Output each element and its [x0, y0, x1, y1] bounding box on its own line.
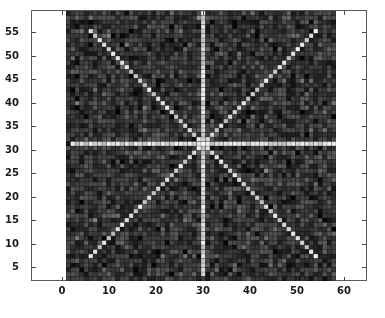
y-tick-mark: [32, 244, 36, 245]
x-tick-label: 50: [290, 286, 304, 296]
x-tick-label: 0: [59, 286, 66, 296]
figure-container: 510152025303540455055 0102030405060: [0, 0, 385, 318]
x-tick-mark-top: [109, 11, 110, 15]
y-tick-mark: [32, 267, 36, 268]
x-tick-mark: [62, 277, 63, 281]
y-tick-mark-right: [362, 32, 366, 33]
y-tick-mark: [32, 173, 36, 174]
y-tick-label: 50: [5, 51, 19, 61]
y-tick-label: 10: [5, 239, 19, 249]
x-tick-mark: [344, 277, 345, 281]
y-tick-label: 40: [5, 98, 19, 108]
x-tick-label: 10: [102, 286, 116, 296]
y-tick-mark-right: [362, 79, 366, 80]
y-tick-mark-right: [362, 244, 366, 245]
x-tick-mark-top: [297, 11, 298, 15]
y-tick-mark-right: [362, 220, 366, 221]
y-tick-label: 20: [5, 192, 19, 202]
x-tick-mark-top: [156, 11, 157, 15]
x-tick-mark: [250, 277, 251, 281]
y-tick-label: 35: [5, 121, 19, 131]
y-tick-mark-right: [362, 150, 366, 151]
y-tick-mark: [32, 220, 36, 221]
x-tick-mark-top: [62, 11, 63, 15]
y-tick-mark: [32, 103, 36, 104]
y-tick-label: 30: [5, 145, 19, 155]
x-tick-label: 40: [243, 286, 257, 296]
y-tick-mark: [32, 126, 36, 127]
y-tick-label: 55: [5, 27, 19, 37]
y-tick-mark-right: [362, 56, 366, 57]
y-tick-mark-right: [362, 197, 366, 198]
y-tick-mark: [32, 32, 36, 33]
y-tick-mark: [32, 197, 36, 198]
x-tick-mark-top: [344, 11, 345, 15]
x-tick-label: 60: [337, 286, 351, 296]
y-tick-label: 15: [5, 215, 19, 225]
y-tick-mark-right: [362, 267, 366, 268]
y-tick-mark: [32, 56, 36, 57]
x-tick-mark-top: [203, 11, 204, 15]
y-tick-label: 5: [12, 262, 19, 272]
y-tick-mark-right: [362, 126, 366, 127]
y-tick-mark-right: [362, 173, 366, 174]
x-tick-mark: [156, 277, 157, 281]
heatmap-image: [66, 11, 336, 281]
y-tick-mark-right: [362, 103, 366, 104]
x-tick-mark: [109, 277, 110, 281]
x-tick-mark: [297, 277, 298, 281]
x-tick-label: 30: [196, 286, 210, 296]
x-tick-label: 20: [149, 286, 163, 296]
y-tick-mark: [32, 150, 36, 151]
x-tick-mark: [203, 277, 204, 281]
y-tick-label: 25: [5, 168, 19, 178]
x-tick-mark-top: [250, 11, 251, 15]
y-tick-mark: [32, 79, 36, 80]
y-tick-label: 45: [5, 74, 19, 84]
